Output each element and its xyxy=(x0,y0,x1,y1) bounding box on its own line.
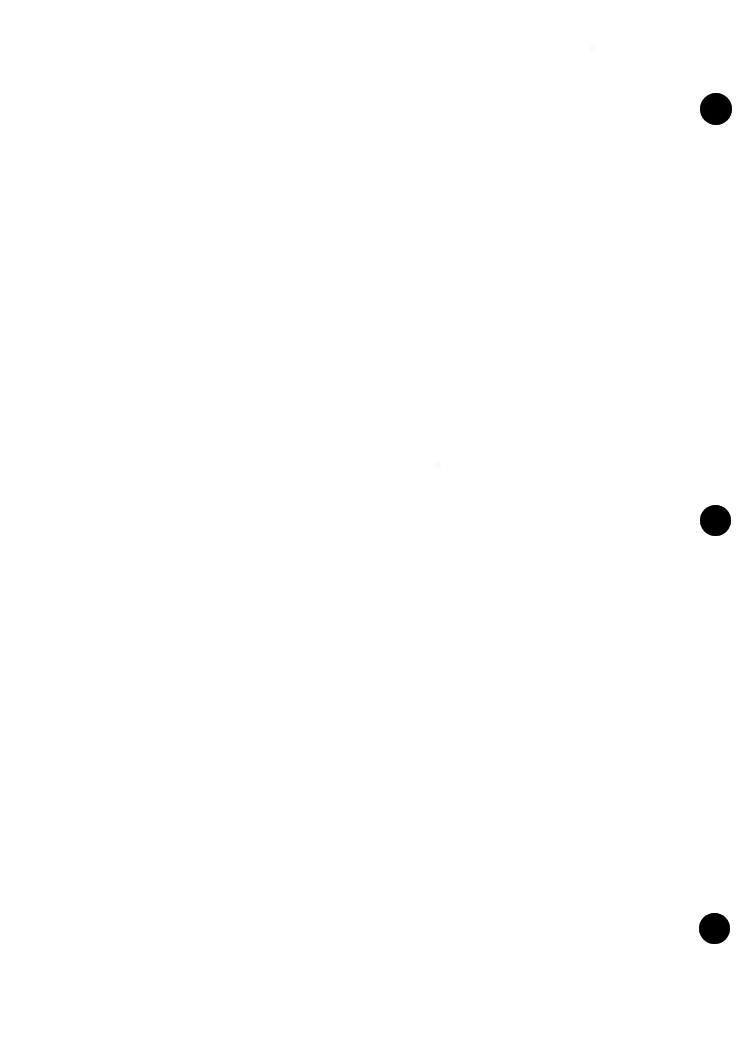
margin-mark-3 xyxy=(699,913,730,944)
margin-marks-layer xyxy=(0,0,742,1038)
margin-mark-1 xyxy=(700,93,732,125)
margin-mark-2 xyxy=(700,505,731,536)
scanned-page xyxy=(0,0,742,1038)
